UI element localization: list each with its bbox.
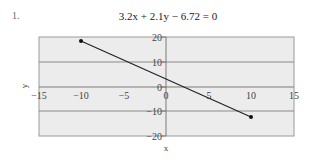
y-tick-label: 0 (157, 82, 162, 93)
x-tick-label: −5 (119, 90, 130, 101)
x-tick-label: −10 (73, 90, 89, 101)
y-axis-label: y (19, 83, 29, 88)
x-axis-label: x (164, 143, 169, 153)
x-tick-label: −15 (31, 90, 47, 101)
y-tick-label: −10 (146, 106, 162, 117)
y-tick-label: −20 (146, 131, 162, 142)
line-chart: 20 10 0 −10 −20 −15 −10 −5 0 5 10 15 y x (0, 0, 311, 167)
data-point (249, 115, 253, 119)
x-tick-label: 10 (246, 90, 256, 101)
y-tick-label: 10 (152, 57, 162, 68)
x-tick-label: 0 (164, 90, 169, 101)
y-tick-label: 20 (152, 32, 162, 43)
data-point (79, 39, 83, 43)
x-tick-label: 15 (289, 90, 299, 101)
